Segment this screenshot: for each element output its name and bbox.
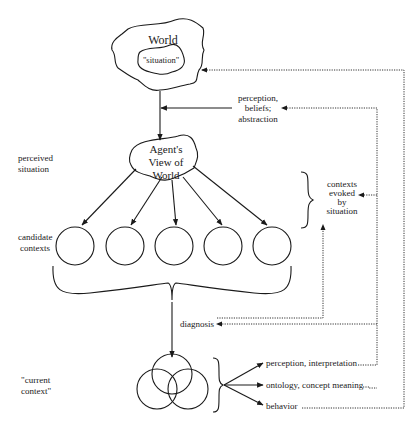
- svg-text:abstraction: abstraction: [238, 114, 278, 124]
- candidate-context-circles: [56, 227, 291, 265]
- venn-circle-right: [168, 369, 208, 409]
- world-cloud: World "situation": [112, 19, 204, 91]
- svg-text:candidate: candidate: [18, 232, 52, 242]
- venn-circle-left: [137, 369, 177, 409]
- context-diagram: World "situation" perception, beliefs; a…: [0, 0, 420, 431]
- candidate-context-5: [253, 227, 291, 265]
- contexts-evoked-label: contexts evoked by situation: [327, 179, 358, 216]
- svg-text:"current: "current: [21, 375, 51, 385]
- output-perception-interpretation: perception, interpretation: [266, 358, 357, 368]
- perception-beliefs-label: perception, beliefs; abstraction: [238, 93, 278, 124]
- output-behavior: behavior: [266, 401, 298, 411]
- candidate-context-3: [155, 227, 193, 265]
- candidate-context-4: [204, 227, 242, 265]
- contexts-evoked-brace: [301, 172, 313, 228]
- svg-text:situation: situation: [18, 164, 49, 174]
- interpretation-to-perception-line: [283, 108, 377, 365]
- agent-view-line2: View of: [148, 156, 183, 168]
- diagnosis-label: diagnosis: [180, 319, 214, 329]
- ontology-connector-line: [363, 387, 377, 388]
- agent-view-line1: Agent's: [149, 143, 182, 155]
- agent-view-cloud: Agent's View of World: [129, 135, 197, 181]
- venn-circle-top: [152, 354, 192, 394]
- candidates-brace: [53, 266, 291, 300]
- candidate-context-2: [106, 227, 144, 265]
- svg-text:perception,: perception,: [238, 93, 278, 103]
- svg-text:context": context": [21, 386, 51, 396]
- situation-label: "situation": [143, 55, 179, 65]
- feedback-lines: [201, 68, 404, 409]
- current-context-label: "current context": [21, 375, 51, 396]
- diagnosis-to-contexts-line: [217, 226, 323, 318]
- output-ontology-concept-meaning: ontology, concept meaning: [266, 380, 364, 390]
- current-context-brace: [213, 358, 223, 412]
- svg-text:situation: situation: [327, 206, 358, 216]
- world-title: World: [148, 33, 178, 47]
- svg-text:perceived: perceived: [18, 153, 53, 163]
- svg-text:beliefs;: beliefs;: [245, 103, 272, 113]
- current-context-venn: [137, 354, 208, 409]
- agent-view-line3: World: [152, 169, 180, 181]
- candidate-contexts-label: candidate contexts: [18, 232, 52, 253]
- candidate-context-1: [56, 227, 94, 265]
- perceived-situation-label: perceived situation: [18, 153, 53, 174]
- svg-text:contexts: contexts: [20, 243, 50, 253]
- output-arrows: [224, 363, 263, 405]
